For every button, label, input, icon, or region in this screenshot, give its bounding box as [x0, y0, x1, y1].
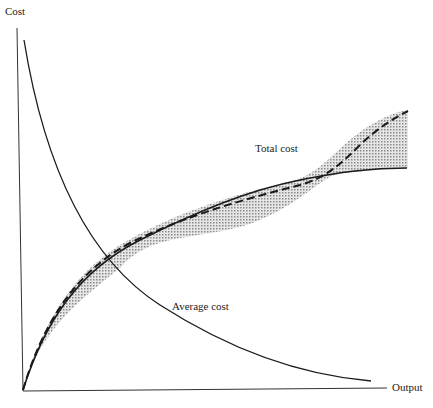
x-axis-label: Output — [392, 381, 423, 393]
cost-chart — [0, 0, 433, 408]
average-cost-label: Average cost — [172, 300, 229, 312]
y-axis — [17, 28, 23, 391]
confidence-band — [23, 110, 408, 390]
y-axis-label: Cost — [5, 5, 25, 17]
x-axis — [23, 388, 387, 391]
total-cost-label: Total cost — [255, 142, 298, 154]
